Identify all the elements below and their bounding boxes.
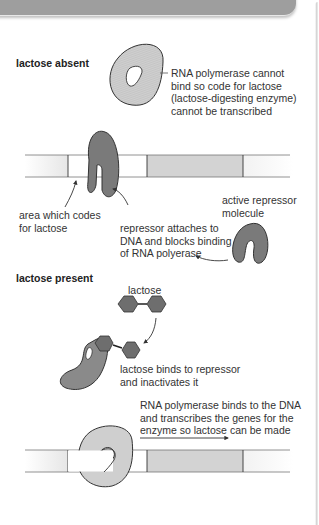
- active-repressor-label: active repressor molecule: [222, 194, 297, 219]
- bound-repressor-icon: [68, 131, 119, 197]
- lactose-label: lactose: [128, 284, 161, 297]
- dna-strand-present: [25, 450, 293, 472]
- bound-rna-polymerase-icon: [68, 426, 133, 487]
- dna-strand-absent: [25, 155, 293, 177]
- rna-polymerase-cannot-bind-label: RNA polymerase cannot bind so code for l…: [171, 67, 296, 117]
- lactose-molecule-icon: [118, 296, 166, 312]
- heading-lactose-present: lactose present: [16, 272, 93, 284]
- rna-polymerase-icon: [110, 44, 168, 105]
- rna-polymerase-binds-label: RNA polymerase binds to the DNA and tran…: [140, 399, 301, 437]
- active-repressor-icon: [233, 223, 268, 263]
- heading-lactose-absent: lactose absent: [16, 57, 89, 69]
- repressor-attaches-label: repressor attaches to DNA and blocks bin…: [120, 222, 232, 260]
- area-codes-lactose-label: area which codes for lactose: [19, 209, 101, 234]
- lactose-binds-label: lactose binds to repressor and inactivat…: [120, 363, 240, 388]
